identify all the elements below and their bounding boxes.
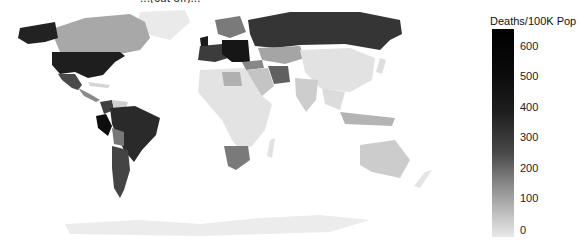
region-japan bbox=[376, 58, 386, 74]
region-argentina bbox=[112, 146, 130, 198]
region-new-zealand bbox=[414, 170, 432, 188]
region-caribbean bbox=[88, 82, 110, 88]
region-antarctica bbox=[65, 215, 370, 236]
tick-label: 400 bbox=[520, 101, 538, 113]
region-peru bbox=[96, 114, 112, 136]
region-libya bbox=[222, 72, 242, 86]
region-india bbox=[295, 78, 318, 112]
region-canada bbox=[55, 14, 150, 54]
region-scandinavia bbox=[215, 16, 246, 38]
region-se-asia bbox=[322, 88, 345, 110]
region-russia bbox=[248, 12, 402, 50]
tick-label: 500 bbox=[520, 70, 538, 82]
region-central-europe bbox=[222, 40, 250, 62]
region-madagascar bbox=[267, 138, 275, 158]
legend-title: Deaths/100K Pop bbox=[490, 15, 576, 27]
region-indonesia bbox=[340, 112, 395, 126]
region-south-africa bbox=[224, 146, 250, 170]
tick-label: 300 bbox=[520, 131, 538, 143]
region-central-america bbox=[78, 88, 100, 102]
map-svg bbox=[0, 0, 480, 246]
colorbar-gradient bbox=[492, 29, 514, 237]
tick-label: 600 bbox=[520, 40, 538, 52]
region-alaska bbox=[18, 22, 58, 44]
world-choropleth-map bbox=[0, 0, 480, 246]
colorbar-legend: Deaths/100K Pop 600 500 400 300 200 100 … bbox=[480, 10, 581, 246]
region-australia bbox=[360, 140, 410, 178]
region-mexico bbox=[58, 74, 82, 90]
tick-label: 200 bbox=[520, 162, 538, 174]
tick-label: 100 bbox=[520, 192, 538, 204]
region-kazakhstan bbox=[258, 46, 305, 64]
region-uk bbox=[200, 36, 208, 46]
tick-label: 0 bbox=[520, 224, 526, 236]
